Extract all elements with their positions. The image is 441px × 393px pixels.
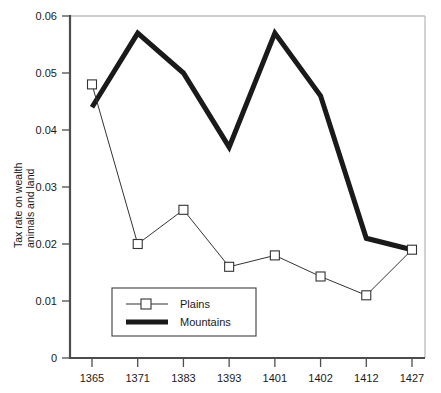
x-tick-label: 1427 bbox=[400, 372, 424, 384]
x-tick-label: 1412 bbox=[354, 372, 378, 384]
data-point-marker-plains bbox=[88, 80, 97, 89]
x-tick-label: 1393 bbox=[217, 372, 241, 384]
y-axis-title-line2: animals and land bbox=[24, 168, 36, 248]
legend-box bbox=[112, 288, 256, 336]
data-point-marker-plains bbox=[225, 262, 234, 271]
y-tick-label: 0 bbox=[51, 352, 57, 364]
y-axis-title: Tax rate on wealth animals and land bbox=[12, 163, 36, 248]
y-tick-label: 0.03 bbox=[36, 181, 57, 193]
y-tick-label: 0.01 bbox=[36, 295, 57, 307]
legend-label-plains: Plains bbox=[180, 298, 210, 310]
x-tick-label: 1365 bbox=[80, 372, 104, 384]
x-tick-label: 1402 bbox=[308, 372, 332, 384]
data-point-marker-plains bbox=[316, 272, 325, 281]
data-point-marker-plains bbox=[179, 205, 188, 214]
chart-legend[interactable]: Plains Mountains bbox=[112, 288, 256, 336]
x-tick-label: 1371 bbox=[125, 372, 149, 384]
data-point-marker-plains bbox=[270, 251, 279, 260]
data-point-marker-plains bbox=[362, 291, 371, 300]
legend-label-mountains: Mountains bbox=[180, 316, 231, 328]
data-point-marker-plains bbox=[133, 240, 142, 249]
y-tick-label: 0.06 bbox=[36, 10, 57, 22]
x-tick-label: 1383 bbox=[171, 372, 195, 384]
y-tick-label: 0.04 bbox=[36, 124, 57, 136]
legend-marker-square-icon bbox=[141, 299, 151, 309]
x-tick-label: 1401 bbox=[263, 372, 287, 384]
y-tick-label: 0.05 bbox=[36, 67, 57, 79]
chart-container: 00.010.020.030.040.050.06 13651371138313… bbox=[0, 0, 441, 393]
tax-rate-line-chart: 00.010.020.030.040.050.06 13651371138313… bbox=[0, 0, 441, 393]
data-point-marker-plains bbox=[408, 245, 417, 254]
y-axis-title-line1: Tax rate on wealth bbox=[12, 163, 24, 248]
y-tick-label: 0.02 bbox=[36, 238, 57, 250]
